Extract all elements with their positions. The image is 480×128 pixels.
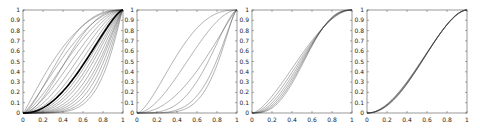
x-tick-label: 0.4 xyxy=(287,116,297,123)
y-tick-label: 1 xyxy=(360,6,364,13)
y-tick-label: 0.2 xyxy=(354,88,364,95)
x-tick-label: 0 xyxy=(21,116,25,123)
curve xyxy=(137,10,237,113)
y-tick-label: 0.8 xyxy=(239,27,249,34)
x-tick-label: 0 xyxy=(365,116,369,123)
y-tick-label: 0.3 xyxy=(124,78,134,85)
y-tick-label: 0.9 xyxy=(10,16,20,23)
x-tick-label: 1 xyxy=(235,116,239,123)
y-tick-label: 1 xyxy=(130,6,134,13)
y-tick-label: 0 xyxy=(16,109,20,116)
y-tick-label: 0.7 xyxy=(124,37,134,44)
y-tick-label: 0.6 xyxy=(124,47,134,54)
y-tick-label: 0.8 xyxy=(124,27,134,34)
x-tick-label: 0.2 xyxy=(267,116,277,123)
y-tick-label: 0.4 xyxy=(124,68,134,75)
curve xyxy=(367,10,467,113)
y-tick-label: 0.8 xyxy=(10,27,20,34)
y-tick-label: 0.4 xyxy=(10,68,20,75)
x-tick-label: 0.8 xyxy=(98,116,108,123)
y-tick-label: 0.9 xyxy=(124,16,134,23)
x-tick-label: 1 xyxy=(465,116,469,123)
y-tick-label: 0.2 xyxy=(10,88,20,95)
y-tick-label: 0.3 xyxy=(239,78,249,85)
y-tick-label: 0.3 xyxy=(354,78,364,85)
y-tick-label: 0.8 xyxy=(354,27,364,34)
y-tick-label: 0.7 xyxy=(354,37,364,44)
x-tick-label: 0.2 xyxy=(152,116,162,123)
x-tick-label: 0.4 xyxy=(402,116,412,123)
x-tick-label: 1 xyxy=(121,116,125,123)
y-tick-label: 0.7 xyxy=(239,37,249,44)
y-tick-label: 0.5 xyxy=(239,58,249,65)
y-tick-label: 0.1 xyxy=(239,99,249,106)
highlight-curve xyxy=(23,10,123,113)
x-tick-label: 0.6 xyxy=(192,116,202,123)
y-tick-label: 0.6 xyxy=(239,47,249,54)
y-tick-label: 0.5 xyxy=(10,58,20,65)
x-tick-label: 0.4 xyxy=(58,116,68,123)
y-tick-label: 0.1 xyxy=(354,99,364,106)
y-tick-label: 0.1 xyxy=(124,99,134,106)
curve xyxy=(367,10,467,113)
y-tick-label: 1 xyxy=(16,6,20,13)
curve xyxy=(367,10,467,113)
x-tick-label: 0.6 xyxy=(422,116,432,123)
curve xyxy=(367,10,467,113)
y-tick-label: 0.3 xyxy=(10,78,20,85)
x-tick-label: 0.8 xyxy=(327,116,337,123)
x-tick-label: 0.6 xyxy=(78,116,88,123)
y-tick-label: 0.9 xyxy=(239,16,249,23)
y-tick-label: 0.2 xyxy=(239,88,249,95)
y-tick-label: 0 xyxy=(245,109,249,116)
curve xyxy=(367,10,467,113)
panel-2: 00.10.20.30.40.50.60.70.80.9100.20.40.60… xyxy=(124,6,239,123)
x-tick-label: 1 xyxy=(350,116,354,123)
x-tick-label: 0.6 xyxy=(307,116,317,123)
y-tick-label: 1 xyxy=(245,6,249,13)
figure: 00.10.20.30.40.50.60.70.80.9100.20.40.60… xyxy=(0,0,480,128)
panel-1: 00.10.20.30.40.50.60.70.80.9100.20.40.60… xyxy=(10,6,125,123)
y-tick-label: 0.5 xyxy=(124,58,134,65)
x-tick-label: 0.8 xyxy=(442,116,452,123)
y-tick-label: 0.1 xyxy=(10,99,20,106)
y-tick-label: 0.9 xyxy=(354,16,364,23)
panel-3: 00.10.20.30.40.50.60.70.80.9100.20.40.60… xyxy=(239,6,354,123)
y-tick-label: 0 xyxy=(360,109,364,116)
y-tick-label: 0.6 xyxy=(354,47,364,54)
y-tick-label: 0.7 xyxy=(10,37,20,44)
x-tick-label: 0.4 xyxy=(172,116,182,123)
panel-4: 00.10.20.30.40.50.60.70.80.9100.20.40.60… xyxy=(354,6,469,123)
curve xyxy=(367,10,467,113)
x-tick-label: 0.8 xyxy=(212,116,222,123)
y-tick-label: 0.6 xyxy=(10,47,20,54)
y-tick-label: 0 xyxy=(130,109,134,116)
plot-frame xyxy=(367,10,467,113)
x-tick-label: 0.2 xyxy=(38,116,48,123)
curve xyxy=(252,10,352,113)
y-tick-label: 0.4 xyxy=(239,68,249,75)
x-tick-label: 0 xyxy=(135,116,139,123)
x-tick-label: 0.2 xyxy=(382,116,392,123)
y-tick-label: 0.2 xyxy=(124,88,134,95)
y-tick-label: 0.5 xyxy=(354,58,364,65)
y-tick-label: 0.4 xyxy=(354,68,364,75)
x-tick-label: 0 xyxy=(250,116,254,123)
